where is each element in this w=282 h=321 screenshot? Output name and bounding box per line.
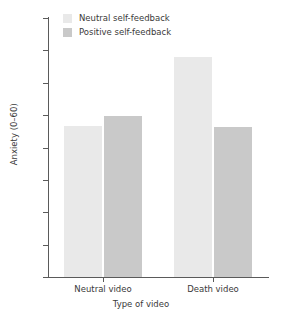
legend-swatch-positive xyxy=(63,28,72,37)
bar xyxy=(64,126,102,277)
x-tick-label: Neutral video xyxy=(53,285,153,294)
legend-label-positive: Positive self-feedback xyxy=(79,28,171,37)
x-tick-label: Death video xyxy=(163,285,263,294)
bar-chart-figure: 0510152025303540 Neutral videoDeath vide… xyxy=(0,0,282,321)
bar xyxy=(174,57,212,277)
bar xyxy=(104,116,142,277)
y-axis-title: Anxiety (0–60) xyxy=(10,79,19,189)
bar xyxy=(214,127,252,277)
plot-area xyxy=(48,18,268,277)
legend-entry-positive: Positive self-feedback xyxy=(63,26,171,39)
legend-swatch-neutral xyxy=(63,14,72,23)
x-tick-mark xyxy=(103,278,104,282)
y-tick-mark xyxy=(43,277,48,278)
x-axis-title: Type of video xyxy=(0,300,282,309)
x-axis-line xyxy=(48,277,269,278)
chart-legend: Neutral self-feedback Positive self-feed… xyxy=(63,12,171,40)
legend-label-neutral: Neutral self-feedback xyxy=(79,14,170,23)
legend-entry-neutral: Neutral self-feedback xyxy=(63,12,171,25)
x-tick-mark xyxy=(213,278,214,282)
